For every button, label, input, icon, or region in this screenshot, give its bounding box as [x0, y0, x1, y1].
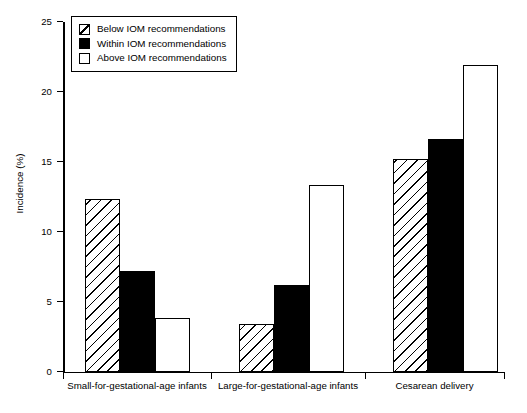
legend-swatch-black-icon — [79, 38, 90, 49]
y-tick-label-25: 25 — [0, 17, 52, 27]
x-group-tick-1 — [211, 373, 212, 379]
legend: Below IOM recommendations Within IOM rec… — [71, 16, 237, 72]
x-group-tick-2 — [365, 373, 366, 379]
bar — [393, 159, 428, 371]
x-group-tick-3 — [504, 373, 505, 379]
y-tick-15 — [57, 161, 63, 162]
y-tick-label-10: 10 — [0, 227, 52, 237]
y-tick-5 — [57, 301, 63, 302]
bar-chart-figure: Incidence (%) 0510152025 Small-for-gesta… — [0, 0, 527, 413]
y-tick-label-15: 15 — [0, 157, 52, 167]
legend-swatch-white-icon — [79, 53, 90, 64]
y-tick-label-0: 0 — [0, 367, 52, 377]
legend-item-within: Within IOM recommendations — [79, 37, 227, 52]
x-label-3: Cesarean delivery — [325, 380, 527, 391]
y-tick-20 — [57, 91, 63, 92]
legend-label-below: Below IOM recommendations — [97, 24, 226, 34]
bar — [120, 271, 155, 371]
x-axis-line — [63, 372, 505, 374]
y-tick-25 — [57, 21, 63, 22]
bar — [463, 65, 498, 372]
y-tick-label-5: 5 — [0, 297, 52, 307]
bar — [428, 139, 463, 371]
y-tick-10 — [57, 231, 63, 232]
bar — [274, 285, 309, 372]
y-tick-label-20: 20 — [0, 87, 52, 97]
legend-item-below: Below IOM recommendations — [79, 22, 227, 37]
bar — [309, 185, 344, 372]
y-tick-0 — [57, 371, 63, 372]
x-group-tick-0 — [63, 373, 64, 379]
y-axis-title: Incidence (%) — [14, 129, 25, 239]
legend-swatch-hatched-icon — [79, 24, 90, 35]
bar — [85, 199, 120, 372]
bar — [155, 318, 190, 371]
legend-label-within: Within IOM recommendations — [97, 39, 226, 49]
legend-label-above: Above IOM recommendations — [97, 53, 227, 63]
legend-item-above: Above IOM recommendations — [79, 51, 227, 66]
y-axis-line — [63, 22, 65, 373]
bar — [239, 324, 274, 372]
